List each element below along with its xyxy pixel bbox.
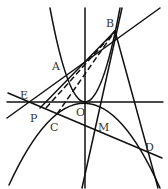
label-P: P (30, 112, 38, 125)
line-B-down-right (115, 31, 158, 188)
label-C: C (50, 121, 58, 134)
label-E: E (20, 89, 28, 102)
geometry-diagram: A B E P O C M D (0, 0, 168, 189)
label-D: D (145, 141, 154, 154)
label-B: B (106, 17, 114, 30)
label-M: M (98, 121, 109, 134)
label-A: A (51, 60, 61, 73)
label-O: O (76, 106, 85, 119)
